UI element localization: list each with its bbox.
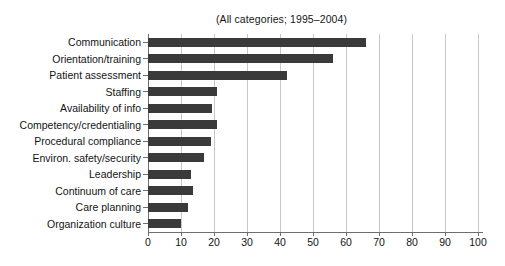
bar-chart: (All categories; 1995–2004) Communicatio… [0,0,505,266]
x-tick-label-100: 100 [463,236,493,248]
category-label: Patient assessment [0,67,141,84]
y-tick-mark [143,141,148,142]
chart-title: (All categories; 1995–2004) [0,13,505,25]
x-axis-line [148,232,483,233]
category-label-row: Leadership [148,166,478,183]
y-tick-mark [143,58,148,59]
category-label: Availability of info [0,100,141,117]
y-tick-mark [143,42,148,43]
category-label: Competency/credentialing [0,117,141,134]
category-label-row: Communication [148,34,478,51]
x-tick-label-40: 40 [265,236,295,248]
category-label-row: Orientation/training [148,51,478,68]
x-tick-label-90: 90 [430,236,460,248]
gridline-100 [478,34,479,232]
x-tick-label-70: 70 [364,236,394,248]
plot-area: CommunicationOrientation/trainingPatient… [148,34,478,232]
x-tick-label-60: 60 [331,236,361,248]
category-label-row: Competency/credentialing [148,117,478,134]
category-label-row: Organization culture [148,216,478,233]
y-tick-mark [143,157,148,158]
y-tick-mark [143,190,148,191]
x-tick-label-50: 50 [298,236,328,248]
category-label-row: Procedural compliance [148,133,478,150]
category-label: Continuum of care [0,183,141,200]
y-tick-mark [143,91,148,92]
category-label: Care planning [0,199,141,216]
category-label: Procedural compliance [0,133,141,150]
y-tick-mark [143,124,148,125]
x-tick-label-30: 30 [232,236,262,248]
category-label: Organization culture [0,216,141,233]
x-tick-label-20: 20 [199,236,229,248]
category-label: Environ. safety/security [0,150,141,167]
x-tick-label-0: 0 [133,236,163,248]
y-tick-mark [143,223,148,224]
category-label-row: Availability of info [148,100,478,117]
category-label-row: Continuum of care [148,183,478,200]
category-label-row: Environ. safety/security [148,150,478,167]
y-tick-mark [143,207,148,208]
y-tick-mark [143,75,148,76]
x-tick-label-10: 10 [166,236,196,248]
category-label: Staffing [0,84,141,101]
category-label-row: Staffing [148,84,478,101]
y-tick-mark [143,108,148,109]
category-label: Orientation/training [0,51,141,68]
y-tick-mark [143,174,148,175]
category-label: Communication [0,34,141,51]
category-label-row: Care planning [148,199,478,216]
category-label: Leadership [0,166,141,183]
category-label-row: Patient assessment [148,67,478,84]
x-tick-label-80: 80 [397,236,427,248]
